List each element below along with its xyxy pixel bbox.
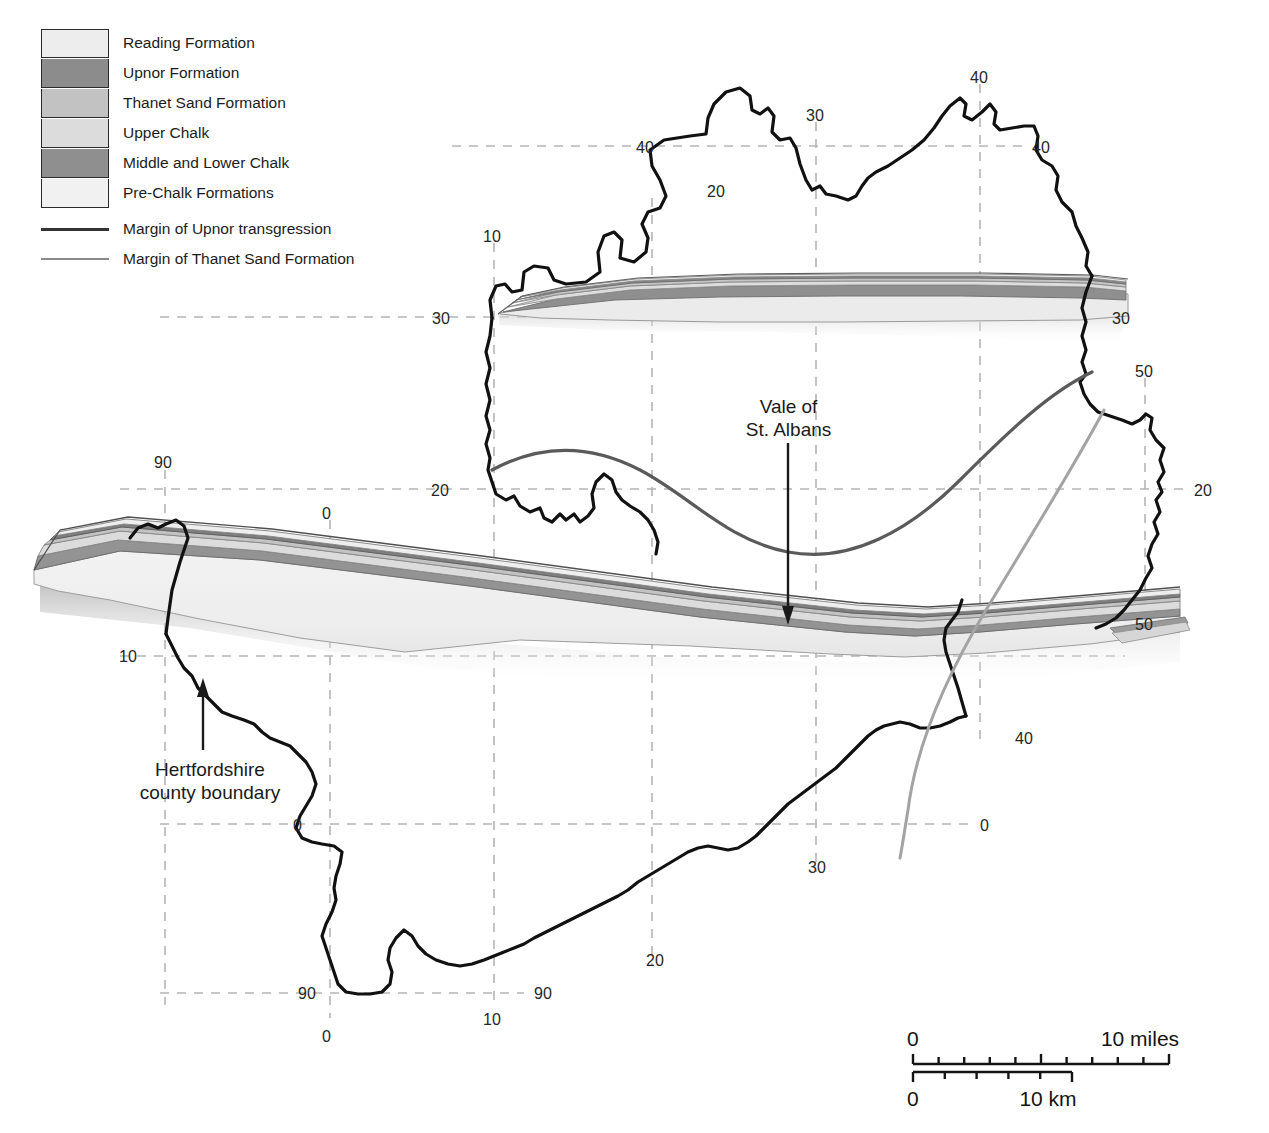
legend-swatch-thanet-sand-formation [41,89,109,118]
grid-label-e90-left: 90 [154,455,172,471]
county-outline-west [486,318,658,554]
grid-label-n90-right: 90 [534,986,552,1002]
legend-label-margin-of-upnor-transgression: Margin of Upnor transgression [123,221,332,237]
grid-label-n0-right: 0 [980,818,989,834]
legend-line-thanet-sand-margin [41,258,109,260]
scale-km-end-label: 10 km [1019,1088,1076,1109]
legend: Reading Formation Upnor Formation Thanet… [41,28,401,274]
grid-label-e10-bottom: 10 [483,1012,501,1028]
scale-miles-end-label: 10 miles [1101,1028,1179,1049]
legend-item-middle-and-lower-chalk[interactable]: Middle and Lower Chalk [41,148,401,178]
legend-swatch-upnor-formation [41,59,109,88]
legend-label-reading-formation: Reading Formation [123,35,255,51]
grid-label-e10-top: 10 [483,229,501,245]
legend-item-reading-formation[interactable]: Reading Formation [41,28,401,58]
grid-label-n40-left: 40 [636,140,654,156]
scale-bar-graphic [913,1054,1169,1082]
legend-swatch-pre-chalk-formations [41,179,109,208]
legend-item-thanet-sand-formation[interactable]: Thanet Sand Formation [41,88,401,118]
legend-line-upnor-transgression [41,228,109,231]
grid-label-n30-right: 30 [1112,311,1130,327]
legend-label-upnor-formation: Upnor Formation [123,65,239,81]
grid-label-n10-left: 10 [119,649,137,665]
legend-item-pre-chalk-formations[interactable]: Pre-Chalk Formations [41,178,401,208]
legend-label-pre-chalk-formations: Pre-Chalk Formations [123,185,274,201]
vale-of-st-albans-line1: Vale of [711,395,866,418]
legend-item-upnor-formation[interactable]: Upnor Formation [41,58,401,88]
legend-label-middle-and-lower-chalk: Middle and Lower Chalk [123,155,289,171]
hertfordshire-boundary-line2: county boundary [110,781,310,804]
map-figure: Reading Formation Upnor Formation Thanet… [0,0,1269,1133]
legend-label-thanet-sand-formation: Thanet Sand Formation [123,95,286,111]
grid-label-e30-top: 30 [806,108,824,124]
grid-label-n90-left: 90 [298,986,316,1002]
grid-label-n30-left: 30 [432,311,450,327]
grid-label-e0-upper: 0 [322,506,331,522]
grid-label-e50-upper: 50 [1135,364,1153,380]
legend-swatch-middle-and-lower-chalk [41,149,109,178]
legend-label-margin-of-thanet-sand-formation: Margin of Thanet Sand Formation [123,251,354,267]
grid-label-n20-right: 20 [1194,483,1212,499]
grid-label-e30-bottom: 30 [808,860,826,876]
legend-swatch-reading-formation [41,29,109,58]
legend-item-margin-of-upnor-transgression[interactable]: Margin of Upnor transgression [41,214,401,244]
hertfordshire-county-boundary-label: Hertfordshire county boundary [110,758,310,804]
grid-label-e50-lower: 50 [1135,617,1153,633]
grid-label-n40-right: 40 [1032,140,1050,156]
scale-km-start-label: 0 [907,1088,919,1109]
grid-label-e20-top: 20 [707,184,725,200]
grid-label-e20-bottom: 20 [646,953,664,969]
grid-label-n0-left: 0 [293,818,302,834]
legend-item-margin-of-thanet-sand-formation[interactable]: Margin of Thanet Sand Formation [41,244,401,274]
grid-label-e0-bottom: 0 [322,1029,331,1045]
scale-miles-start-label: 0 [907,1028,919,1049]
grid-label-n20-left: 20 [431,483,449,499]
legend-swatch-upper-chalk [41,119,109,148]
vale-of-st-albans-line2: St. Albans [711,418,866,441]
grid-label-e40-lower: 40 [1015,731,1033,747]
vale-of-st-albans-label: Vale of St. Albans [711,395,866,441]
hertfordshire-boundary-line1: Hertfordshire [110,758,310,781]
legend-label-upper-chalk: Upper Chalk [123,125,209,141]
legend-item-upper-chalk[interactable]: Upper Chalk [41,118,401,148]
grid-label-n40-top: 40 [970,70,988,86]
